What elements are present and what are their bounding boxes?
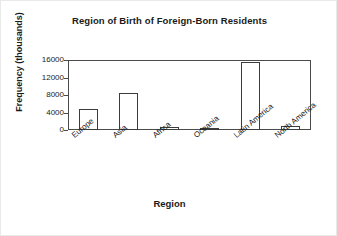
- bar: [119, 93, 138, 130]
- y-axis-tick-label: 12000: [31, 74, 64, 82]
- chart-page: Region of Birth of Foreign-Born Resident…: [0, 0, 337, 236]
- bar: [241, 62, 260, 130]
- bar: [160, 127, 179, 131]
- chart-title: Region of Birth of Foreign-Born Resident…: [1, 15, 337, 26]
- y-axis-tick-label: 16000: [31, 56, 64, 64]
- bar: [281, 126, 300, 130]
- x-axis-title: Region: [1, 198, 337, 209]
- y-axis-tick-label: 8000: [31, 91, 64, 99]
- bar: [79, 109, 98, 130]
- bar-series: [68, 60, 311, 130]
- y-axis-tick-mark: [64, 130, 68, 131]
- y-axis-tick-label: 4000: [31, 109, 64, 117]
- y-axis-title: Frequency (thousands): [14, 12, 24, 112]
- y-axis-tick-label: 0: [31, 126, 64, 134]
- bar: [200, 128, 219, 130]
